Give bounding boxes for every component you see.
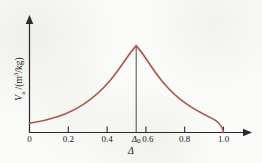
y-axis-arrowhead: [26, 15, 34, 24]
x-axis-arrowhead: [243, 129, 252, 137]
y-axis-unit-post: /kg): [14, 57, 24, 72]
figure-container: 0 0.2 0.4 Δ0 0.6 0.8 1.0 Δ Va /(m3/kg): [0, 0, 262, 163]
y-axis-variable: V: [14, 95, 24, 101]
data-curve: [30, 46, 224, 133]
y-axis-unit-pre: /(m: [14, 76, 24, 92]
x-tick-label-0: 0: [20, 135, 40, 144]
x-tick-label-0p4: 0.4: [97, 135, 117, 144]
y-axis-subscript: a: [19, 92, 27, 95]
y-axis-unit-exponent: 3: [12, 73, 20, 77]
y-axis-title: Va /(m3/kg): [13, 41, 27, 117]
x-tick-label-0p2: 0.2: [58, 135, 78, 144]
x-tick-label-1p0: 1.0: [214, 135, 234, 144]
x-tick-label-0p6: 0.6: [138, 135, 158, 144]
x-tick-label-0p8: 0.8: [175, 135, 195, 144]
x-axis-ticks: [30, 127, 224, 133]
x-axis-title: Δ: [0, 146, 262, 156]
